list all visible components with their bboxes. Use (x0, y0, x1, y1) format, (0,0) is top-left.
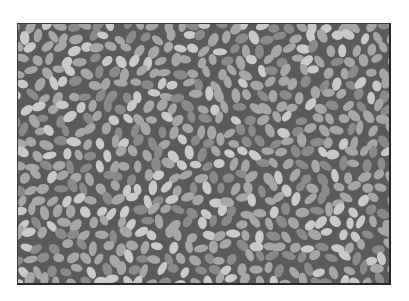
grain-texture-photo (17, 23, 391, 285)
grain-pattern (18, 24, 390, 284)
